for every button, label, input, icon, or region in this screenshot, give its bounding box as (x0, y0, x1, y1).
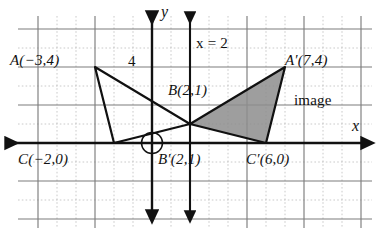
diagram-canvas: A(−3,4) A′(7,4) B(2,1) C(−2,0) B′(2,1) C… (0, 0, 380, 235)
label-point-a-prime: A′(7,4) (285, 53, 328, 68)
label-line-equation: x = 2 (196, 36, 228, 51)
label-point-b-prime: B′(2,1) (158, 152, 201, 167)
label-point-c: C(−2,0) (18, 152, 68, 167)
coordinate-plane-graphic (0, 0, 380, 235)
label-tick-four: 4 (128, 54, 136, 69)
label-point-b: B(2,1) (168, 83, 207, 98)
label-point-c-prime: C′(6,0) (246, 152, 289, 167)
label-y-axis: y (161, 4, 168, 20)
label-x-axis: x (352, 118, 359, 134)
label-image-caption: image (294, 93, 332, 108)
label-point-a: A(−3,4) (10, 53, 59, 68)
